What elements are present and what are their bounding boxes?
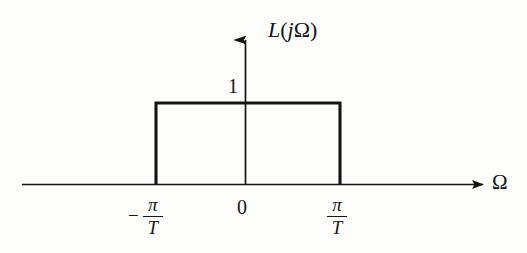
fraction-pi-over-t-negative: π T bbox=[143, 195, 163, 238]
x-tick-label-positive-cutoff: π T bbox=[327, 195, 347, 238]
x-tick-label-negative-cutoff: − π T bbox=[128, 195, 163, 238]
figure-canvas: L(jΩ) Ω 1 0 − π T π T bbox=[0, 0, 527, 253]
origin-label: 0 bbox=[237, 197, 247, 217]
function-label-omega: Ω bbox=[294, 17, 310, 42]
plot-svg bbox=[0, 0, 527, 253]
function-label-close-paren: ) bbox=[310, 17, 317, 42]
y-tick-label-one: 1 bbox=[228, 76, 238, 96]
fraction-numerator-pi: π bbox=[329, 195, 345, 216]
function-label: L(jΩ) bbox=[268, 19, 317, 41]
minus-sign: − bbox=[128, 205, 139, 227]
fraction-denominator-t: T bbox=[329, 217, 346, 238]
fraction-numerator-pi: π bbox=[145, 195, 161, 216]
function-label-open-paren: ( bbox=[280, 17, 287, 42]
fraction-pi-over-t-positive: π T bbox=[327, 195, 347, 238]
function-label-l: L bbox=[268, 17, 280, 42]
x-axis-label: Ω bbox=[492, 172, 508, 193]
fraction-denominator-t: T bbox=[144, 217, 161, 238]
pulse-waveform bbox=[156, 103, 340, 184]
